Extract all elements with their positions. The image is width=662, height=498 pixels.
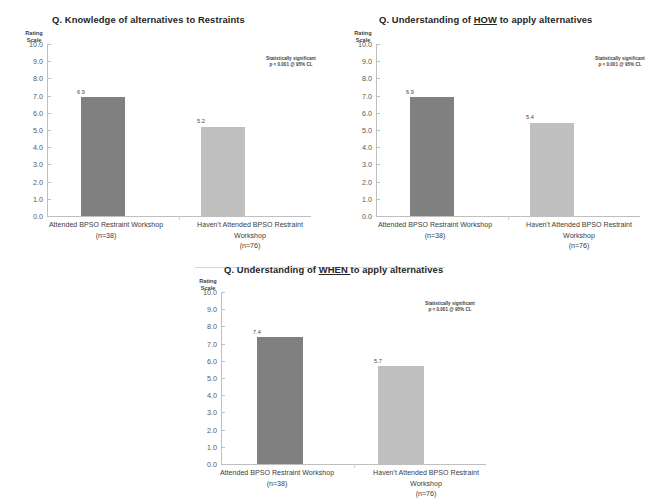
category-label-line2: Workshop: [351, 479, 501, 490]
bar-value-label: 6.9: [390, 89, 430, 96]
category-label-not-attended: Haven't Attended BPSO Restraint Workshop…: [176, 220, 324, 252]
y-tick-label: 3.0: [348, 161, 372, 168]
bar-not-attended[interactable]: [378, 366, 424, 464]
y-tick-label: 5.0: [348, 127, 372, 134]
y-tick-label: 1.0: [193, 443, 217, 450]
chart-panel-knowledge-of-alternatives: Q. Knowledge of alternatives to Restrain…: [0, 4, 331, 254]
bars-container: [376, 44, 640, 216]
category-label-line2: Workshop: [505, 231, 653, 242]
y-tick-label: 5.0: [19, 127, 43, 134]
category-label-line1: Haven't Attended BPSO Restraint: [176, 220, 324, 231]
category-label-not-attended: Haven't Attended BPSO Restraint Workshop…: [505, 220, 653, 252]
y-tick-label: 5.0: [193, 375, 217, 382]
category-label-line1: Haven't Attended BPSO Restraint: [505, 220, 653, 231]
y-tick-label: 3.0: [193, 409, 217, 416]
plot-area: 10.0 9.0 8.0 7.0 6.0 5.0 4.0 3.0 2.0 1.0…: [166, 256, 511, 498]
y-tick-label: 2.0: [19, 178, 43, 185]
y-tick-label: 2.0: [193, 426, 217, 433]
category-label-line3: (n=76): [176, 241, 324, 252]
category-label-line1: Attended BPSO Restraint Workshop: [356, 220, 514, 231]
y-tick-label: 4.0: [348, 144, 372, 151]
y-tick-label: 3.0: [19, 161, 43, 168]
bars-container: [221, 292, 486, 464]
y-tick-label: 6.0: [193, 357, 217, 364]
y-tick-label: 6.0: [19, 109, 43, 116]
category-label-line2: (n=38): [196, 479, 358, 490]
plot-area: 10.0 9.0 8.0 7.0 6.0 5.0 4.0 3.0 2.0 1.0…: [331, 4, 662, 254]
y-tick-label: 1.0: [348, 195, 372, 202]
y-tick-label: 10.0: [348, 41, 372, 48]
y-tick-label: 7.0: [193, 340, 217, 347]
y-tick-label: 10.0: [193, 289, 217, 296]
y-tick-label: 4.0: [193, 392, 217, 399]
category-label-line3: (n=76): [351, 489, 501, 498]
bar-value-label: 5.7: [358, 358, 398, 365]
category-label-attended: Attended BPSO Restraint Workshop (n=38): [196, 468, 358, 489]
bar-attended[interactable]: [410, 97, 454, 216]
y-tick-label: 0.0: [348, 213, 372, 220]
bar-value-label: 6.9: [61, 89, 101, 96]
y-tick-label: 10.0: [19, 41, 43, 48]
y-tick-label: 9.0: [19, 58, 43, 65]
chart-sheet: Q. Knowledge of alternatives to Restrain…: [0, 0, 662, 498]
bars-container: [47, 44, 311, 216]
category-label-attended: Attended BPSO Restraint Workshop (n=38): [27, 220, 185, 241]
category-label-attended: Attended BPSO Restraint Workshop (n=38): [356, 220, 514, 241]
y-tick-label: 8.0: [193, 323, 217, 330]
bar-value-label: 7.4: [237, 329, 277, 336]
category-label-line2: (n=38): [27, 231, 185, 242]
category-label-line3: (n=76): [505, 241, 653, 252]
y-tick-label: 1.0: [19, 195, 43, 202]
category-label-line2: Workshop: [176, 231, 324, 242]
category-label-line2: (n=38): [356, 231, 514, 242]
category-label-not-attended: Haven't Attended BPSO Restraint Workshop…: [351, 468, 501, 498]
bar-not-attended[interactable]: [201, 127, 245, 216]
y-tick-label: 7.0: [19, 92, 43, 99]
chart-panel-understanding-when: Q. Understanding of WHEN to apply altern…: [166, 256, 511, 498]
y-tick-label: 7.0: [348, 92, 372, 99]
y-tick-label: 8.0: [19, 75, 43, 82]
chart-panel-understanding-how: Q. Understanding of HOW to apply alterna…: [331, 4, 662, 254]
bar-not-attended[interactable]: [530, 123, 574, 216]
bar-value-label: 5.4: [510, 114, 550, 121]
y-tick-label: 8.0: [348, 75, 372, 82]
y-tick-label: 0.0: [193, 461, 217, 468]
y-tick-label: 6.0: [348, 109, 372, 116]
y-tick-label: 4.0: [19, 144, 43, 151]
category-label-line1: Haven't Attended BPSO Restraint: [351, 468, 501, 479]
y-tick-label: 0.0: [19, 213, 43, 220]
y-tick-label: 9.0: [348, 58, 372, 65]
bar-attended[interactable]: [81, 97, 125, 216]
bar-value-label: 5.2: [181, 118, 221, 125]
category-label-line1: Attended BPSO Restraint Workshop: [196, 468, 358, 479]
y-tick-label: 2.0: [348, 178, 372, 185]
category-label-line1: Attended BPSO Restraint Workshop: [27, 220, 185, 231]
y-tick-label: 9.0: [193, 306, 217, 313]
bar-attended[interactable]: [257, 337, 303, 464]
plot-area: 10.0 9.0 8.0 7.0 6.0 5.0 4.0 3.0 2.0 1.0…: [0, 4, 331, 254]
